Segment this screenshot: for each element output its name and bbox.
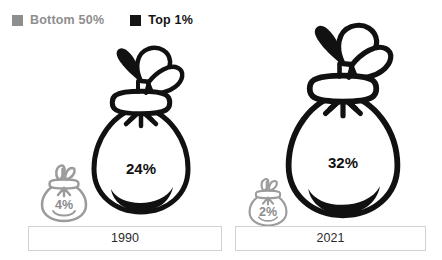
year-box-1990: 1990 <box>28 226 222 251</box>
value-label-top-1-2021: 32% <box>266 155 420 170</box>
chart-plot-area: 4% <box>0 28 442 260</box>
wealth-share-infographic: Bottom 50% Top 1% <box>0 0 442 260</box>
year-label-2021: 2021 <box>317 232 345 245</box>
money-bag-icon-top-1-2021 <box>266 22 420 228</box>
year-label-1990: 1990 <box>111 232 139 245</box>
chart-group-1990: 4% <box>14 28 229 260</box>
chart-legend: Bottom 50% Top 1% <box>12 10 193 30</box>
legend-swatch-icon-bottom-50 <box>12 15 23 26</box>
legend-label-top-1: Top 1% <box>148 14 193 27</box>
legend-item-top-1: Top 1% <box>130 14 193 27</box>
year-box-2021: 2021 <box>235 226 426 251</box>
chart-group-2021: 2% <box>229 28 442 260</box>
legend-swatch-icon-top-1 <box>130 15 141 26</box>
legend-label-bottom-50: Bottom 50% <box>30 14 104 27</box>
money-bag-icon-top-1-1990 <box>82 45 200 223</box>
value-label-top-1-1990: 24% <box>82 161 200 176</box>
legend-item-bottom-50: Bottom 50% <box>12 14 104 27</box>
